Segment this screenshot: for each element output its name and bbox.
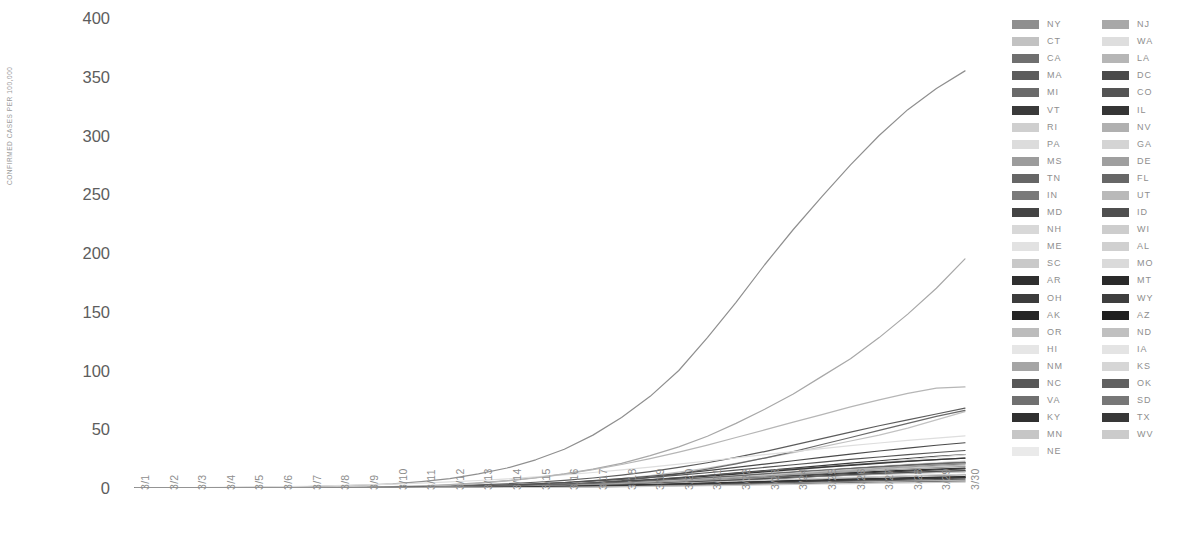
legend-label: MI	[1047, 88, 1059, 97]
legend-label: TX	[1137, 413, 1151, 422]
legend-item-nc[interactable]: NC	[1012, 375, 1102, 392]
legend-item-nj[interactable]: NJ	[1102, 16, 1192, 33]
legend-label: LA	[1137, 54, 1150, 63]
legend-label: SD	[1137, 396, 1152, 405]
x-tick-label: 3/25	[826, 468, 838, 490]
legend-item-in[interactable]: IN	[1012, 187, 1102, 204]
legend-label: NH	[1047, 225, 1062, 234]
legend-swatch	[1012, 191, 1039, 200]
legend-item-al[interactable]: AL	[1102, 238, 1192, 255]
legend-swatch	[1102, 294, 1129, 303]
legend-item-mi[interactable]: MI	[1012, 84, 1102, 101]
x-tick-label: 3/6	[282, 475, 294, 491]
legend-label: IL	[1137, 106, 1147, 115]
legend-item-va[interactable]: VA	[1012, 392, 1102, 409]
legend-item-co[interactable]: CO	[1102, 84, 1192, 101]
legend-item-me[interactable]: ME	[1012, 238, 1102, 255]
legend-item-wy[interactable]: WY	[1102, 290, 1192, 307]
legend-swatch	[1012, 362, 1039, 371]
legend-item-ne[interactable]: NE	[1012, 443, 1102, 460]
legend-item-sc[interactable]: SC	[1012, 255, 1102, 272]
legend-item-nh[interactable]: NH	[1012, 221, 1102, 238]
legend-item-ms[interactable]: MS	[1012, 153, 1102, 170]
legend-item-sd[interactable]: SD	[1102, 392, 1192, 409]
legend-label: ID	[1137, 208, 1148, 217]
legend-label: KY	[1047, 413, 1061, 422]
legend-label: IN	[1047, 191, 1058, 200]
legend-label: NC	[1047, 379, 1062, 388]
legend-item-fl[interactable]: FL	[1102, 170, 1192, 187]
legend-item-or[interactable]: OR	[1012, 324, 1102, 341]
legend-swatch	[1102, 88, 1129, 97]
legend-item-dc[interactable]: DC	[1102, 67, 1192, 84]
legend-item-nv[interactable]: NV	[1102, 119, 1192, 136]
legend-item-hi[interactable]: HI	[1012, 341, 1102, 358]
legend-item-mt[interactable]: MT	[1102, 272, 1192, 289]
legend-item-vt[interactable]: VT	[1012, 101, 1102, 118]
legend-swatch	[1102, 345, 1129, 354]
legend-swatch	[1102, 123, 1129, 132]
legend-item-az[interactable]: AZ	[1102, 307, 1192, 324]
legend-item-ct[interactable]: CT	[1012, 33, 1102, 50]
legend-item-mo[interactable]: MO	[1102, 255, 1192, 272]
x-tick-label: 3/3	[196, 475, 208, 491]
legend-swatch	[1012, 140, 1039, 149]
legend-swatch	[1012, 88, 1039, 97]
legend-label: NE	[1047, 447, 1062, 456]
legend-item-oh[interactable]: OH	[1012, 290, 1102, 307]
legend-item-ok[interactable]: OK	[1102, 375, 1192, 392]
legend-item-pa[interactable]: PA	[1012, 136, 1102, 153]
legend-item-ny[interactable]: NY	[1012, 16, 1102, 33]
legend-item-de[interactable]: DE	[1102, 153, 1192, 170]
legend-item-nd[interactable]: ND	[1102, 324, 1192, 341]
legend-column-right: NJWALADCCOILNVGADEFLUTIDWIALMOMTWYAZNDIA…	[1102, 16, 1192, 460]
x-tick-label: 3/27	[883, 468, 895, 490]
legend-swatch	[1012, 396, 1039, 405]
legend-item-ia[interactable]: IA	[1102, 341, 1192, 358]
legend-item-wi[interactable]: WI	[1102, 221, 1192, 238]
legend-item-id[interactable]: ID	[1102, 204, 1192, 221]
legend-item-mn[interactable]: MN	[1012, 426, 1102, 443]
legend-label: AZ	[1137, 311, 1151, 320]
legend-label: SC	[1047, 259, 1062, 268]
legend-label: OR	[1047, 328, 1063, 337]
x-tick-label: 3/9	[368, 475, 380, 491]
legend-item-ky[interactable]: KY	[1012, 409, 1102, 426]
legend-label: NV	[1137, 123, 1152, 132]
legend-swatch	[1102, 37, 1129, 46]
legend-label: NJ	[1137, 20, 1150, 29]
legend-label: UT	[1137, 191, 1151, 200]
legend-swatch	[1012, 413, 1039, 422]
legend-item-ca[interactable]: CA	[1012, 50, 1102, 67]
legend-item-ga[interactable]: GA	[1102, 136, 1192, 153]
legend-item-tn[interactable]: TN	[1012, 170, 1102, 187]
legend-label: DE	[1137, 157, 1152, 166]
x-tick-label: 3/11	[425, 469, 437, 490]
legend-item-la[interactable]: LA	[1102, 50, 1192, 67]
legend-item-wv[interactable]: WV	[1102, 426, 1192, 443]
legend-swatch	[1102, 140, 1129, 149]
legend-swatch	[1102, 191, 1129, 200]
legend-item-wa[interactable]: WA	[1102, 33, 1192, 50]
legend-item-il[interactable]: IL	[1102, 101, 1192, 118]
legend-swatch	[1102, 328, 1129, 337]
legend-item-ks[interactable]: KS	[1102, 358, 1192, 375]
legend-swatch	[1102, 71, 1129, 80]
x-tick-label: 3/20	[683, 468, 695, 490]
legend-item-nm[interactable]: NM	[1012, 358, 1102, 375]
legend-item-ri[interactable]: RI	[1012, 119, 1102, 136]
legend-column-left: NYCTCAMAMIVTRIPAMSTNINMDNHMESCAROHAKORHI…	[1012, 16, 1102, 460]
x-tick-label: 3/23	[769, 468, 781, 490]
legend-item-ar[interactable]: AR	[1012, 272, 1102, 289]
legend-swatch	[1102, 430, 1129, 439]
legend-item-md[interactable]: MD	[1012, 204, 1102, 221]
legend-swatch	[1012, 157, 1039, 166]
legend-item-ak[interactable]: AK	[1012, 307, 1102, 324]
legend-swatch	[1102, 362, 1129, 371]
legend-item-ma[interactable]: MA	[1012, 67, 1102, 84]
legend-item-ut[interactable]: UT	[1102, 187, 1192, 204]
legend-swatch	[1012, 311, 1039, 320]
legend-label: KS	[1137, 362, 1151, 371]
legend-swatch	[1102, 54, 1129, 63]
legend-item-tx[interactable]: TX	[1102, 409, 1192, 426]
